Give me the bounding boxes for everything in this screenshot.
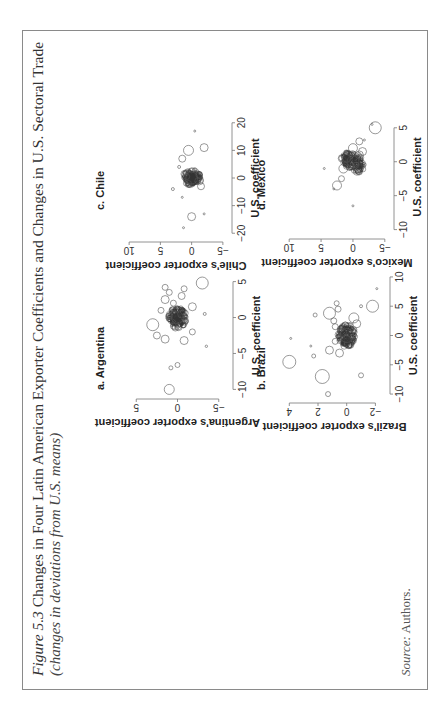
data-point (181, 196, 183, 198)
data-point (310, 345, 312, 347)
data-point (161, 296, 169, 304)
data-point (313, 313, 317, 317)
data-point (363, 139, 365, 141)
x-tick-label: 10 (394, 271, 405, 283)
data-point (315, 370, 329, 384)
x-tick-label: −5 (398, 190, 409, 202)
data-point (169, 366, 173, 370)
data-point (325, 346, 333, 354)
panel-title: a. Argentina (94, 326, 106, 390)
x-tick-label: −5 (237, 347, 248, 359)
y-tick-label: 5 (318, 242, 324, 253)
data-point (180, 337, 188, 345)
data-point (179, 155, 186, 162)
data-point (194, 130, 196, 132)
data-point (188, 303, 196, 311)
x-tick-label: 20 (236, 117, 247, 129)
data-point (333, 181, 342, 190)
data-point (147, 319, 159, 331)
data-point (352, 205, 354, 207)
data-point (178, 165, 181, 168)
y-axis-label: Brazil's exporter coefficient (262, 421, 406, 433)
data-point (161, 335, 169, 343)
data-point (312, 354, 316, 358)
data-point (171, 188, 174, 191)
data-point (196, 277, 208, 289)
data-point (175, 362, 180, 367)
data-point (336, 349, 344, 357)
data-point (326, 392, 331, 397)
y-tick-label: 5 (157, 245, 163, 256)
x-tick-label: 0 (394, 332, 405, 338)
x-axis-label: U.S. coefficient (407, 295, 419, 375)
y-tick-label: −5 (379, 242, 391, 253)
data-point (178, 292, 185, 299)
data-point (164, 384, 174, 394)
y-tick-label: 4 (286, 406, 292, 417)
y-tick-label: 0 (350, 242, 356, 253)
y-tick-label: 0 (174, 402, 180, 413)
source-label: Source: (398, 636, 413, 676)
data-point (323, 307, 335, 319)
x-tick-label: 10 (236, 144, 247, 156)
panel-title: d. Mexico (255, 160, 267, 210)
data-point (181, 286, 187, 292)
data-point (359, 148, 367, 156)
data-point (353, 320, 361, 328)
y-tick-label: −2 (369, 406, 381, 417)
x-tick-label: 0 (237, 314, 248, 320)
figure-source: Source: Authors. (398, 588, 414, 676)
x-tick-label: −10 (394, 385, 405, 402)
x-tick-label: −10 (237, 380, 248, 397)
panel-title: b. Brazil (255, 347, 267, 390)
x-tick-label: 0 (236, 175, 247, 181)
data-point (290, 337, 292, 339)
data-point (332, 338, 338, 344)
y-tick-label: 0 (343, 406, 349, 417)
x-tick-label: −5 (394, 359, 405, 371)
data-point (376, 288, 378, 290)
y-axis-label: Argentina's exporter coefficient (95, 417, 261, 429)
data-point (335, 306, 341, 312)
y-axis-label: Chile's exporter coefficient (105, 260, 246, 272)
y-tick-label: 0 (188, 245, 194, 256)
data-point (166, 289, 172, 295)
data-point (170, 300, 176, 306)
data-point (323, 168, 325, 170)
data-point (338, 176, 344, 182)
y-tick-label: 2 (315, 406, 321, 417)
scatter-panels: a. Argentina−10−505U.S. coefficient−505A… (22, 30, 428, 690)
data-point (184, 145, 194, 155)
x-tick-label: 0 (398, 159, 409, 165)
x-tick-label: 5 (398, 125, 409, 131)
data-point (203, 312, 206, 315)
data-point (360, 305, 363, 308)
data-point (205, 345, 207, 347)
y-tick-label: 10 (283, 242, 295, 253)
panel-title: c. Chile (94, 171, 106, 210)
data-point (367, 300, 379, 312)
data-point (153, 332, 160, 339)
data-point (371, 123, 373, 125)
y-tick-label: −5 (213, 402, 225, 413)
y-tick-label: 10 (123, 245, 135, 256)
x-axis-label: U.S. coefficient (411, 137, 423, 217)
x-tick-label: −10 (236, 197, 247, 214)
data-point (359, 373, 364, 378)
data-point (203, 213, 205, 215)
data-point (332, 324, 338, 330)
data-point (283, 355, 296, 368)
y-axis-label: Mexico's exporter coefficient (261, 257, 413, 269)
y-tick-label: 5 (133, 402, 139, 413)
x-tick-label: −20 (236, 224, 247, 241)
data-point (334, 301, 339, 306)
x-tick-label: 5 (237, 278, 248, 284)
data-point (158, 307, 164, 313)
data-point (356, 138, 363, 145)
x-tick-label: −10 (398, 221, 409, 238)
data-point (183, 227, 185, 229)
x-tick-label: 5 (394, 303, 405, 309)
data-point (200, 144, 208, 152)
data-point (162, 284, 168, 290)
source-text: Authors. (398, 588, 413, 633)
